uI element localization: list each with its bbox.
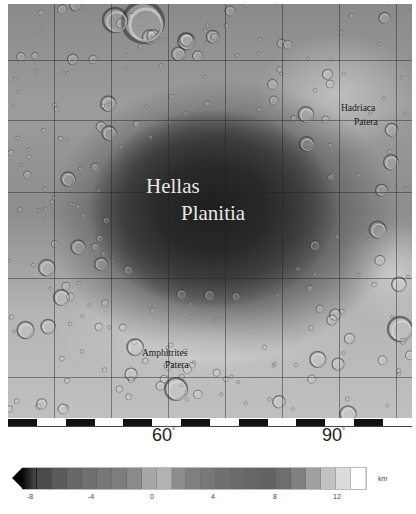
colorbar-bin [246,468,261,489]
scale-segment-white [383,419,412,426]
colorbar-tick-label: 4 [211,493,215,500]
scale-segment-black [296,419,325,426]
colorbar-tick-label: -8 [27,493,33,500]
label-amphitrites: Amphitrites [142,349,187,359]
colorbar-bin [291,468,306,489]
colorbar-bin [172,468,187,489]
colorbar-bin [22,468,37,489]
colorbar-bin [321,468,336,489]
scale-segment-black [354,419,383,426]
scale-segment-black [123,419,152,426]
colorbar-tick-label: 12 [333,493,341,500]
scale-segment-black [239,419,268,426]
colorbar-tick-label: -4 [88,493,94,500]
colorbar-bin [351,468,366,489]
topographic-map: Hellas Planitia Hadriaca Patera Amphitri… [8,4,412,418]
parallel-line [8,192,412,193]
colorbar-bin [67,468,82,489]
colorbar-bin [231,468,246,489]
colorbar-bin [142,468,157,489]
scale-segment-white [210,419,239,426]
colorbar-bin [276,468,291,489]
colorbar-bin [201,468,216,489]
label-amphitrites-patera: Patera [165,361,189,371]
scale-segment-white [37,419,66,426]
colorbar-bin [186,468,201,489]
parallel-line [8,278,412,279]
longitude-label-60: 60° [152,426,175,444]
colorbar-bin [112,468,127,489]
colorbar-bin [82,468,97,489]
label-hadriaca: Hadriaca [341,104,375,114]
colorbar-unit-label: km [378,475,387,482]
colorbar-bin [336,468,351,489]
colorbar-bin [261,468,276,489]
parallel-line [8,120,412,121]
longitude-scale-bar [8,419,412,427]
colorbar-bin [216,468,231,489]
scale-segment-black [66,419,95,426]
elevation-colorbar [22,467,367,490]
colorbar-bin [127,468,142,489]
colorbar-bin [157,468,172,489]
colorbar-tick-label: 8 [273,493,277,500]
label-planitia: Planitia [181,203,245,224]
scale-segment-black [181,419,210,426]
parallel-line [8,377,412,378]
scale-segment-white [95,419,124,426]
meridian-line [339,4,340,418]
meridian-line [54,4,55,418]
label-hellas: Hellas [146,176,200,197]
parallel-line [8,60,412,61]
colorbar-bin [97,468,112,489]
scale-segment-white [268,419,297,426]
colorbar-bin [52,468,67,489]
meridian-line [282,4,283,418]
colorbar-bin [37,468,52,489]
meridian-line [111,4,112,418]
meridian-line [396,4,397,418]
label-hadriaca-patera: Patera [354,118,378,128]
scale-segment-black [8,419,37,426]
longitude-label-90: 90° [322,426,345,444]
colorbar-tick-label: 0 [150,493,154,500]
colorbar-bin [306,468,321,489]
